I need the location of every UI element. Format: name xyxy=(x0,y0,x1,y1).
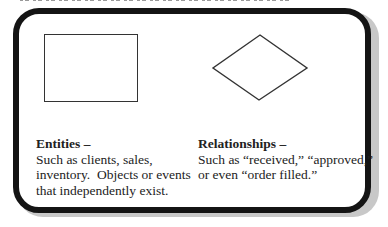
entities-line: inventory. Objects or events xyxy=(36,167,196,183)
entities-title: Entities – xyxy=(36,136,196,152)
relationships-line: Such as “received,” “approved,” xyxy=(198,152,358,168)
relationships-title: Relationships – xyxy=(198,136,358,152)
relationships-caption: Relationships – Such as “received,” “app… xyxy=(198,136,358,183)
entities-line: Such as clients, sales, xyxy=(36,152,196,168)
entity-rectangle-shape xyxy=(44,34,138,102)
relationships-line: or even “order filled.” xyxy=(198,167,358,183)
clipped-heading-text xyxy=(20,0,290,3)
relationship-diamond-shape xyxy=(210,32,310,104)
entities-line: that independently exist. xyxy=(36,183,196,199)
entities-caption: Entities – Such as clients, sales, inven… xyxy=(36,136,196,198)
